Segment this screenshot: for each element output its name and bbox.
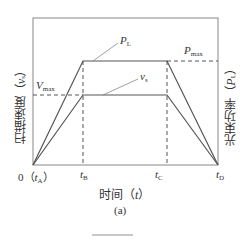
beam-power-curve (33, 61, 218, 165)
tick-tc: tC (155, 168, 163, 182)
pl-leader-line (93, 43, 118, 61)
tick-td: tD (216, 168, 224, 182)
pmax-label: Pmax (184, 44, 203, 58)
tick-origin: 0（tA） (18, 168, 54, 185)
right-axis-label: 光束功率（PL） (222, 62, 239, 146)
x-axis-label: 时间（t） (99, 185, 150, 203)
vmax-label: Vmax (36, 79, 55, 93)
pl-label: PL (120, 34, 131, 48)
tick-tb: tB (80, 168, 88, 182)
scan-speed-curve (33, 95, 218, 165)
vs-leader-line (103, 79, 138, 95)
vs-label: vs (140, 70, 148, 84)
figure-caption: (a) (114, 204, 126, 216)
left-axis-label: 扫描速度（vs） (12, 64, 29, 144)
